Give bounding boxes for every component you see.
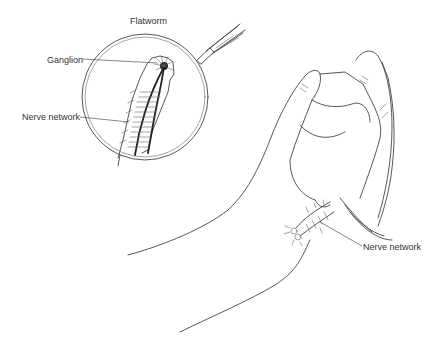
worm-nerve-leader-line (80, 117, 129, 122)
worm-nerve-network-label: Nerve network (22, 113, 80, 122)
flatworm-title: Flatworm (130, 17, 167, 26)
flatworm-hand-figure: Flatworm Ganglion Nerve network Nerve ne… (0, 0, 442, 351)
hand-nerve-leader-line (320, 222, 362, 246)
illustration-canvas (0, 0, 442, 351)
flatworm-icon (118, 56, 174, 166)
ganglion-label: Ganglion (47, 56, 83, 65)
forceps-icon (197, 24, 245, 64)
hand-nerve-network-label: Nerve network (363, 243, 421, 252)
